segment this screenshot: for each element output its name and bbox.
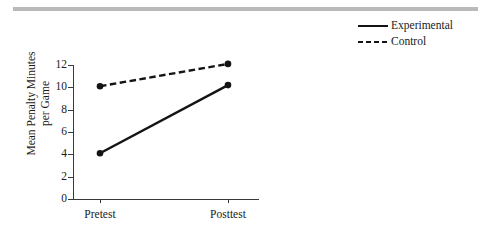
data-point-marker — [97, 150, 104, 157]
top-rule-divider — [13, 7, 478, 11]
y-axis-title: Mean Penalty Minutes per Game — [25, 29, 52, 179]
legend-label-control: Control — [391, 35, 426, 48]
y-axis-tick-label: 6 — [61, 126, 67, 138]
data-point-marker — [97, 83, 104, 90]
plot-area: 024681012 PretestPosttest — [73, 58, 259, 200]
y-axis-tick-label: 2 — [61, 171, 67, 183]
y-axis-tick-label: 12 — [56, 59, 68, 71]
series-line-control — [100, 64, 228, 86]
data-point-marker — [225, 61, 232, 68]
series-line-experimental — [100, 85, 228, 153]
chart-figure: Experimental Control Mean Penalty Minute… — [0, 0, 486, 237]
y-axis-tick-label: 0 — [61, 193, 67, 205]
y-axis-tick-label: 4 — [61, 149, 67, 161]
y-axis-tick-label: 8 — [61, 104, 67, 116]
legend-label-experimental: Experimental — [391, 19, 453, 32]
x-axis-tick-label: Posttest — [210, 208, 246, 221]
y-axis-title-line-2: per Game — [38, 29, 52, 179]
legend-item-control[interactable]: Control — [358, 34, 484, 49]
chart-legend: Experimental Control — [358, 18, 484, 50]
y-axis-title-line-1: Mean Penalty Minutes — [25, 29, 39, 179]
legend-item-experimental[interactable]: Experimental — [358, 18, 484, 33]
dashed-line-swatch-icon — [358, 37, 388, 47]
y-axis-tick-label: 10 — [56, 82, 68, 94]
x-axis-tick-label: Pretest — [84, 208, 115, 221]
data-series-layer — [73, 58, 259, 200]
data-point-marker — [225, 82, 232, 89]
solid-line-swatch-icon — [358, 21, 388, 31]
